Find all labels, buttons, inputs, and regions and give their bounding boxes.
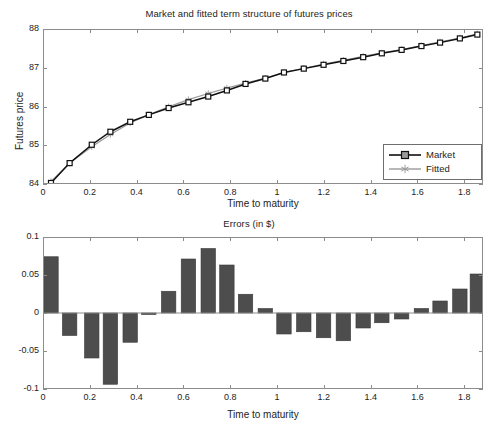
x-tick-mark: [137, 237, 138, 241]
x-tick-mark: [417, 180, 418, 184]
x-tick-mark: [324, 237, 325, 241]
x-tick-mark: [464, 237, 465, 241]
x-tick-1.6: 1.6: [402, 392, 432, 402]
x-tick-0.6: 0.6: [168, 187, 198, 197]
x-tick-mark: [90, 180, 91, 184]
chart-title-errors: Errors (in $): [0, 218, 498, 229]
x-tick-mark: [43, 237, 44, 241]
x-tick-1.4: 1.4: [356, 392, 386, 402]
legend-swatch-market: [388, 148, 422, 162]
y-tick-85: 85: [8, 139, 39, 149]
y-tick-mark: [43, 68, 47, 69]
y-tick-0.1: 0.1: [2, 231, 39, 241]
x-tick-0.8: 0.8: [215, 187, 245, 197]
errors-svg: [44, 238, 482, 388]
x-tick-mark: [90, 385, 91, 389]
x-tick-0.4: 0.4: [122, 392, 152, 402]
y-tick-mark: [43, 351, 47, 352]
x-tick-1: 1: [262, 187, 292, 197]
x-tick-0: 0: [28, 392, 58, 402]
y-tick-mark: [479, 389, 483, 390]
y-tick-mark: [479, 68, 483, 69]
y-tick-0.05: 0.05: [2, 269, 39, 279]
x-tick-mark: [324, 385, 325, 389]
x-axis-label-time-to-maturity-errors: Time to maturity: [43, 409, 483, 420]
x-tick-1.2: 1.2: [309, 392, 339, 402]
y-tick-mark: [479, 351, 483, 352]
x-tick-mark: [277, 29, 278, 33]
y-tick-mark: [43, 313, 47, 314]
x-tick-mark: [183, 237, 184, 241]
x-tick-mark: [371, 237, 372, 241]
legend-swatch-fitted: [388, 162, 422, 176]
x-tick-mark: [277, 180, 278, 184]
x-tick-mark: [183, 29, 184, 33]
x-tick-mark: [277, 237, 278, 241]
x-tick-mark: [417, 29, 418, 33]
y-tick-mark: [43, 389, 47, 390]
y-tick-mark: [43, 145, 47, 146]
legend-label-market: Market: [426, 148, 455, 162]
x-tick-1.6: 1.6: [402, 187, 432, 197]
x-tick-1.8: 1.8: [449, 392, 479, 402]
x-tick-mark: [230, 385, 231, 389]
x-tick-0: 0: [28, 187, 58, 197]
y-tick-88: 88: [8, 23, 39, 33]
legend-term-structure[interactable]: Market Fitted: [383, 144, 482, 180]
x-axis-label-time-to-maturity: Time to maturity: [43, 198, 483, 209]
x-tick-mark: [183, 180, 184, 184]
legend-label-fitted: Fitted: [426, 162, 450, 176]
plot-area-errors: [43, 237, 483, 389]
legend-entry-fitted[interactable]: Fitted: [388, 162, 476, 176]
y-tick-mark: [479, 29, 483, 30]
x-tick-0.6: 0.6: [168, 392, 198, 402]
y-tick-0: 0: [2, 307, 39, 317]
y-tick-mark: [479, 313, 483, 314]
x-tick-0.2: 0.2: [75, 392, 105, 402]
x-tick-mark: [371, 180, 372, 184]
y-tick-mark: [43, 184, 47, 185]
y-tick-86: 86: [8, 101, 39, 111]
x-tick-mark: [90, 237, 91, 241]
legend-entry-market[interactable]: Market: [388, 148, 476, 162]
x-tick-mark: [43, 29, 44, 33]
x-tick-mark: [137, 29, 138, 33]
x-tick-mark: [137, 385, 138, 389]
x-tick-mark: [417, 237, 418, 241]
y-tick--0.05: -0.05: [2, 345, 39, 355]
x-tick-mark: [230, 237, 231, 241]
x-tick-mark: [417, 385, 418, 389]
x-tick-mark: [464, 29, 465, 33]
x-tick-mark: [324, 29, 325, 33]
y-tick-mark: [43, 275, 47, 276]
x-tick-mark: [464, 180, 465, 184]
x-tick-1: 1: [262, 392, 292, 402]
errors-chart: Errors (in $) Time to maturity -0.1-0.05…: [0, 210, 498, 432]
y-tick-mark: [479, 107, 483, 108]
x-tick-mark: [464, 385, 465, 389]
y-tick-mark: [43, 107, 47, 108]
x-tick-mark: [43, 385, 44, 389]
x-tick-mark: [137, 180, 138, 184]
x-tick-1.4: 1.4: [356, 187, 386, 197]
x-tick-0.8: 0.8: [215, 392, 245, 402]
x-tick-1.2: 1.2: [309, 187, 339, 197]
x-tick-mark: [230, 29, 231, 33]
x-tick-1.8: 1.8: [449, 187, 479, 197]
x-tick-mark: [277, 385, 278, 389]
y-tick-mark: [479, 237, 483, 238]
x-tick-mark: [183, 385, 184, 389]
term-structure-chart: Market and fitted term structure of futu…: [0, 0, 498, 216]
figure-canvas: Market and fitted term structure of futu…: [0, 0, 498, 432]
x-tick-mark: [230, 180, 231, 184]
y-tick-mark: [479, 184, 483, 185]
x-tick-mark: [43, 180, 44, 184]
chart-title-term-structure: Market and fitted term structure of futu…: [0, 8, 498, 19]
x-tick-mark: [90, 29, 91, 33]
x-tick-0.2: 0.2: [75, 187, 105, 197]
x-tick-mark: [324, 180, 325, 184]
y-tick-87: 87: [8, 62, 39, 72]
x-tick-mark: [371, 29, 372, 33]
x-tick-0.4: 0.4: [122, 187, 152, 197]
x-tick-mark: [371, 385, 372, 389]
